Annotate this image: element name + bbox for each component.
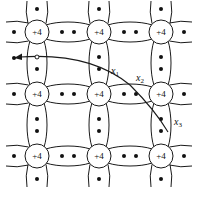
electron-dot — [35, 67, 39, 71]
electron-dot — [12, 154, 16, 158]
free-electron-start — [12, 56, 16, 60]
atom-1-2: +4 — [149, 82, 173, 106]
electron-dot — [97, 177, 101, 181]
atom-charge-label: +4 — [156, 27, 166, 37]
electron-dot — [122, 30, 126, 34]
atom-charge-label: +4 — [94, 27, 104, 37]
electron-dot — [182, 154, 186, 158]
electron-dot — [12, 30, 16, 34]
atom-charge-label: +4 — [156, 89, 166, 99]
electron-dot — [122, 154, 126, 158]
atom-0-0: +4 — [25, 20, 49, 44]
electron-dot — [35, 117, 39, 121]
atoms: +4+4+4+4+4+4+4+4+4 — [25, 20, 173, 168]
atom-0-2: +4 — [149, 20, 173, 44]
electron-dot — [72, 92, 76, 96]
atom-charge-label: +4 — [156, 151, 166, 161]
atom-2-1: +4 — [87, 144, 111, 168]
electron-dot — [159, 67, 163, 71]
electron-dot — [72, 30, 76, 34]
electron-dot — [97, 129, 101, 133]
electron-dot — [35, 7, 39, 11]
crystal-lattice-diagram: +4+4+4+4+4+4+4+4+4 x1 x2 x3 — [0, 0, 201, 200]
atom-charge-label: +4 — [94, 89, 104, 99]
electron-dot — [182, 92, 186, 96]
electron-dot — [159, 7, 163, 11]
atom-charge-label: +4 — [32, 151, 42, 161]
electron-dot — [60, 154, 64, 158]
atom-1-0: +4 — [25, 82, 49, 106]
electron-dot — [159, 129, 163, 133]
atom-0-1: +4 — [87, 20, 111, 44]
label-x2: x2 — [135, 72, 144, 85]
electron-dot — [60, 92, 64, 96]
electron-dot — [159, 177, 163, 181]
atom-1-1: +4 — [87, 82, 111, 106]
atom-2-2: +4 — [149, 144, 173, 168]
electron-dot — [159, 55, 163, 59]
atom-charge-label: +4 — [94, 151, 104, 161]
electron-dot — [12, 92, 16, 96]
electron-dot — [97, 117, 101, 121]
electron-dot — [35, 129, 39, 133]
electron-dot — [97, 7, 101, 11]
electron-dot — [134, 30, 138, 34]
electron-dot — [182, 30, 186, 34]
atom-charge-label: +4 — [32, 27, 42, 37]
electron-dot — [72, 154, 76, 158]
electron-dot — [122, 92, 126, 96]
label-x1: x1 — [110, 65, 119, 78]
hole-icon — [35, 55, 39, 59]
atom-charge-label: +4 — [32, 89, 42, 99]
electron-dot — [134, 154, 138, 158]
label-x3: x3 — [173, 116, 182, 129]
electron-dot — [60, 30, 64, 34]
atom-2-0: +4 — [25, 144, 49, 168]
electron-dot — [35, 177, 39, 181]
electron-dot — [97, 55, 101, 59]
